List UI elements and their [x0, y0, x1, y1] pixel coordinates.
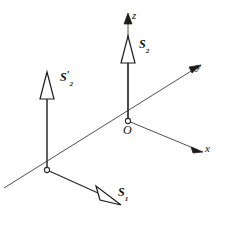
second-node-marker: [44, 167, 49, 172]
s2-prime-vector-arrowhead: [40, 72, 54, 99]
s2-label-base: S: [139, 37, 146, 51]
diagram-canvas: [0, 0, 228, 226]
x-axis-arrowhead: [191, 147, 203, 153]
s1-label-subscript: 1: [125, 195, 129, 203]
y-axis-line: [4, 68, 196, 188]
vector-diagram-figure: z y x O S2 S′2 S1: [0, 0, 228, 226]
x-axis-label: x: [205, 143, 210, 154]
s2-prime-label-prime: ′: [67, 69, 70, 80]
s2-label-subscript: 2: [146, 47, 150, 55]
s2-prime-vector-label: S′2: [60, 71, 73, 86]
z-axis-label: z: [132, 10, 136, 21]
s2-vector-label: S2: [139, 38, 149, 53]
s1-label-base: S: [118, 185, 125, 199]
s2-vector-arrowhead: [121, 36, 135, 63]
origin-label: O: [123, 124, 132, 136]
s1-vector-label: S1: [118, 186, 128, 201]
s2-prime-label-base: S: [60, 70, 67, 84]
s2-prime-label-subscript: 2: [70, 80, 74, 88]
y-axis-label: y: [196, 61, 201, 72]
z-axis-arrowhead: [124, 13, 132, 24]
x-axis-line: [128, 121, 198, 150]
s1-vector-shaft: [47, 170, 98, 193]
